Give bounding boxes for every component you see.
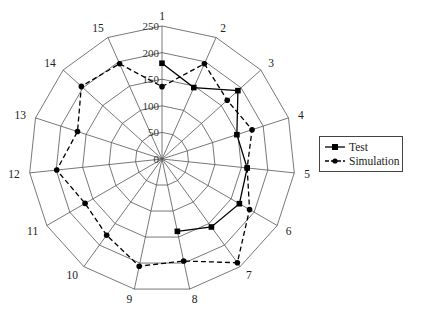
simulation-point-13 bbox=[75, 129, 81, 135]
category-labels: 123456789101112131415 bbox=[8, 10, 310, 305]
category-label-15: 15 bbox=[92, 22, 104, 34]
axis-line-2 bbox=[162, 37, 216, 159]
test-point-7 bbox=[209, 224, 215, 230]
test-point-8 bbox=[175, 229, 181, 235]
category-label-12: 12 bbox=[8, 168, 20, 180]
category-label-2: 2 bbox=[220, 22, 226, 34]
legend-item-simulation: Simulation bbox=[324, 154, 399, 168]
radial-tick-0: 0 bbox=[154, 153, 160, 165]
legend-label-test: Test bbox=[349, 141, 368, 153]
simulation-point-8 bbox=[181, 258, 187, 264]
radial-tick-50: 50 bbox=[148, 126, 160, 138]
simulation-point-6 bbox=[247, 207, 253, 213]
simulation-point-10 bbox=[104, 232, 110, 238]
legend-label-simulation: Simulation bbox=[349, 155, 399, 167]
simulation-point-4 bbox=[249, 127, 255, 133]
category-label-9: 9 bbox=[127, 293, 133, 305]
simulation-point-3 bbox=[224, 97, 230, 103]
category-label-3: 3 bbox=[268, 57, 274, 69]
category-label-7: 7 bbox=[246, 269, 252, 281]
category-label-1: 1 bbox=[159, 10, 165, 22]
simulation-point-9 bbox=[136, 263, 142, 269]
axis-line-3 bbox=[162, 70, 261, 159]
test-point-1 bbox=[159, 60, 165, 66]
category-label-14: 14 bbox=[44, 57, 56, 69]
radial-tick-100: 100 bbox=[143, 100, 160, 112]
category-label-5: 5 bbox=[304, 168, 310, 180]
category-label-13: 13 bbox=[14, 109, 26, 121]
simulation-point-15 bbox=[117, 61, 123, 67]
test-point-6 bbox=[237, 201, 243, 207]
category-label-8: 8 bbox=[192, 293, 198, 305]
axis-line-13 bbox=[36, 118, 162, 159]
test-point-2 bbox=[191, 85, 197, 91]
simulation-point-11 bbox=[82, 201, 88, 207]
radial-tick-250: 250 bbox=[143, 20, 160, 32]
legend-item-test: Test bbox=[324, 140, 368, 154]
category-label-4: 4 bbox=[298, 109, 304, 121]
simulation-point-12 bbox=[54, 167, 60, 173]
test-series-marker-icon bbox=[324, 142, 346, 152]
category-label-11: 11 bbox=[27, 225, 38, 237]
radial-tick-200: 200 bbox=[143, 47, 160, 59]
axis-line-4 bbox=[162, 118, 288, 159]
simulation-point-7 bbox=[235, 260, 241, 266]
simulation-point-5 bbox=[244, 165, 250, 171]
simulation-point-14 bbox=[79, 84, 85, 90]
simulation-point-1 bbox=[159, 84, 165, 90]
legend: Test Simulation bbox=[319, 136, 403, 172]
category-label-10: 10 bbox=[66, 269, 78, 281]
simulation-point-2 bbox=[202, 61, 208, 67]
category-label-6: 6 bbox=[286, 225, 292, 237]
simulation-series-marker-icon bbox=[324, 156, 346, 166]
test-point-4 bbox=[234, 132, 240, 138]
test-point-3 bbox=[235, 88, 241, 94]
